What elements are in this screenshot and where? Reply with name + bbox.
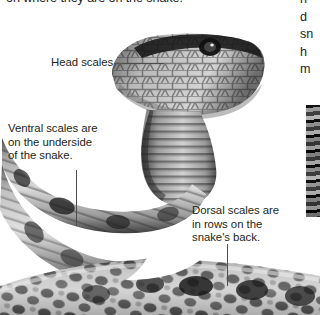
label-ventral-scales: Ventral scales are on the underside of t… [8,122,98,163]
label-dorsal-scales: Dorsal scales are in rows on the snake's… [192,204,279,245]
intro-paragraph-clipped: on where they are on the snake. [6,0,183,6]
label-head-scales: Head scales [51,56,113,70]
ventral-scales-leader-line [76,170,77,226]
secondary-photo-strip [306,105,320,217]
dorsal-scales-leader-line [227,244,228,286]
snake-head [112,33,264,119]
document-page: on where they are on the snake. n d sn h… [0,0,320,315]
head-scales-leader-line [122,63,164,64]
snake-neck [141,110,216,207]
